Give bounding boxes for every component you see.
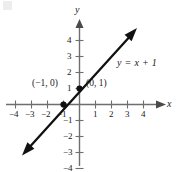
y-tick-label-2: 2 [67, 68, 71, 77]
x-tick-label-neg3: −3 [25, 110, 34, 119]
y-tick-label-4: 4 [67, 36, 71, 45]
coordinate-graph-figure: x y −4 −3 −2 −1 1 2 3 4 4 3 2 1 −1 −2 −3… [0, 0, 176, 172]
y-tick-label-1: 1 [67, 84, 71, 93]
x-tick-label-neg2: −2 [41, 110, 50, 119]
y-tick-label-3: 3 [67, 52, 71, 61]
x-axis-arrowhead [156, 101, 166, 109]
y-tick-label-neg2: −2 [63, 132, 72, 141]
x-tick-label-1: 1 [93, 110, 97, 119]
y-tick-label-neg3: −3 [63, 148, 72, 157]
y-axis-arrowhead [76, 19, 84, 28]
x-tick-label-2: 2 [109, 110, 113, 119]
point-marker-x-intercept [60, 101, 66, 107]
x-tick-label-4: 4 [141, 110, 145, 119]
y-tick-label-neg1: −1 [63, 116, 72, 125]
point-marker-y-intercept [76, 85, 82, 91]
x-tick-label-neg4: −4 [9, 110, 18, 119]
x-axis-label: x [167, 99, 171, 109]
equation-label: y = x + 1 [117, 58, 157, 68]
point-label-x-intercept: (−1, 0) [32, 79, 58, 89]
point-label-y-intercept: (0, 1) [86, 79, 107, 89]
y-tick-label-neg4: −4 [63, 164, 72, 172]
x-tick-label-3: 3 [125, 110, 129, 119]
y-axis-label: y [75, 5, 79, 15]
